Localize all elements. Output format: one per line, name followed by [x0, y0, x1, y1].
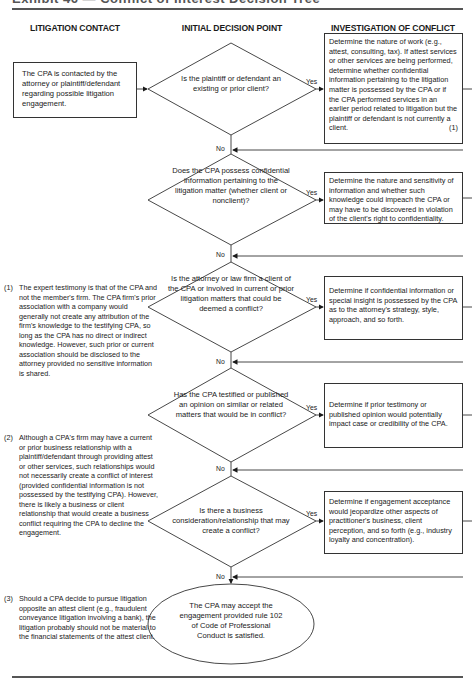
- footnote-2-number: (2): [4, 433, 13, 443]
- footnote-3-text: Should a CPA decide to pursue litigation…: [19, 594, 158, 642]
- footnote-1-text: The expert testimony is that of the CPA …: [19, 283, 158, 378]
- investigation-5-text: Determine if engagement acceptance would…: [329, 497, 452, 544]
- footnote-3: (3) Should a CPA decide to pursue litiga…: [4, 594, 158, 642]
- decision-2-question: Does the CPA possess confidential inform…: [170, 166, 292, 206]
- yes-label-3: Yes: [306, 296, 317, 303]
- investigation-box-5: Determine if engagement acceptance would…: [324, 491, 463, 554]
- start-box: The CPA is contacted by the attorney or …: [13, 62, 137, 118]
- no-label-2: No: [216, 251, 225, 258]
- terminal-text: The CPA may accept the engagement provid…: [178, 601, 284, 641]
- investigation-box-4: Determine if prior testimony or publishe…: [324, 383, 463, 448]
- start-box-text: The CPA is contacted by the attorney or …: [22, 69, 120, 108]
- no-label-1: No: [216, 145, 225, 152]
- decision-4-question: Has the CPA testified or published an op…: [172, 390, 290, 420]
- investigation-1-text: Determine the nature of work (e.g., atte…: [329, 37, 457, 132]
- investigation-box-3: Determine if confidential information or…: [324, 276, 463, 340]
- no-label-3: No: [216, 358, 225, 365]
- investigation-3-text: Determine if confidential information or…: [329, 286, 457, 324]
- investigation-box-1: Determine the nature of work (e.g., atte…: [324, 33, 463, 144]
- footnote-1: (1) The expert testimony is that of the …: [4, 283, 158, 378]
- footnote-1-number: (1): [4, 283, 13, 293]
- investigation-box-2: Determine the nature and sensitivity of …: [324, 172, 463, 224]
- investigation-1-footnote-ref: (1): [449, 123, 458, 133]
- yes-label-2: Yes: [306, 189, 317, 196]
- footnote-2: (2) Although a CPA's firm may have a cur…: [4, 433, 158, 538]
- footnote-2-text: Although a CPA's firm may have a current…: [19, 433, 158, 538]
- no-label-4: No: [216, 465, 225, 472]
- decision-3-question: Is the attorney or law firm a client of …: [166, 274, 296, 314]
- investigation-2-text: Determine the nature and sensitivity of …: [329, 176, 454, 223]
- decision-5-question: Is there a business consideration/relati…: [170, 506, 292, 536]
- investigation-4-text: Determine if prior testimony or publishe…: [329, 400, 448, 428]
- no-label-5: No: [216, 573, 225, 580]
- yes-label-1: Yes: [306, 78, 317, 85]
- footnote-3-number: (3): [4, 594, 13, 604]
- decision-1-question: Is the plaintiff or defendant an existin…: [168, 74, 294, 94]
- yes-label-5: Yes: [306, 510, 317, 517]
- yes-label-4: Yes: [306, 404, 317, 411]
